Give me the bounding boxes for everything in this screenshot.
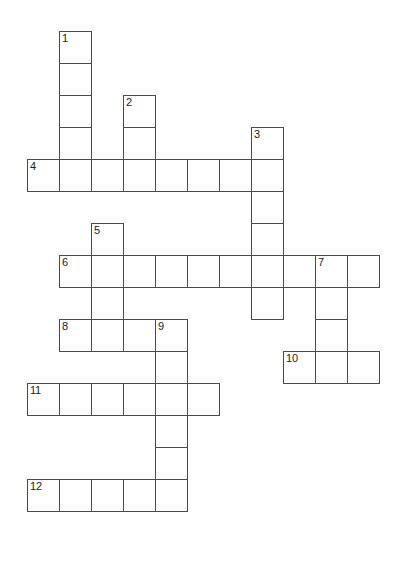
crossword-cell[interactable] — [283, 255, 316, 288]
crossword-cell-numbered-6[interactable]: 6 — [59, 255, 92, 288]
crossword-cell[interactable] — [59, 63, 92, 96]
cell-number-label: 1 — [62, 32, 68, 44]
crossword-cell[interactable] — [59, 479, 92, 512]
crossword-cell[interactable] — [155, 255, 188, 288]
crossword-cell[interactable] — [59, 95, 92, 128]
crossword-cell[interactable] — [315, 319, 348, 352]
cell-number-label: 9 — [158, 320, 164, 332]
crossword-cell[interactable] — [123, 255, 156, 288]
cell-number-label: 2 — [126, 96, 132, 108]
crossword-cell[interactable] — [251, 287, 284, 320]
cell-number-label: 7 — [318, 256, 324, 268]
crossword-cell-numbered-2[interactable]: 2 — [123, 95, 156, 128]
crossword-cell[interactable] — [315, 351, 348, 384]
crossword-cell[interactable] — [91, 255, 124, 288]
crossword-cell[interactable] — [251, 255, 284, 288]
crossword-cell[interactable] — [251, 159, 284, 192]
crossword-cell-numbered-1[interactable]: 1 — [59, 31, 92, 64]
crossword-cell[interactable] — [251, 223, 284, 256]
crossword-cell[interactable] — [91, 159, 124, 192]
crossword-cell[interactable] — [315, 287, 348, 320]
crossword-cell[interactable] — [91, 383, 124, 416]
cell-number-label: 5 — [94, 224, 100, 236]
crossword-cell[interactable] — [155, 351, 188, 384]
cell-number-label: 8 — [62, 320, 68, 332]
crossword-cell-numbered-11[interactable]: 11 — [27, 383, 60, 416]
cell-number-label: 3 — [254, 128, 260, 140]
crossword-cell[interactable] — [123, 479, 156, 512]
crossword-cell-numbered-3[interactable]: 3 — [251, 127, 284, 160]
crossword-cell[interactable] — [91, 319, 124, 352]
crossword-cell[interactable] — [155, 415, 188, 448]
crossword-cell[interactable] — [123, 159, 156, 192]
crossword-cell-numbered-8[interactable]: 8 — [59, 319, 92, 352]
crossword-cell[interactable] — [59, 383, 92, 416]
crossword-cell[interactable] — [123, 319, 156, 352]
crossword-cell[interactable] — [91, 287, 124, 320]
crossword-cell-numbered-9[interactable]: 9 — [155, 319, 188, 352]
crossword-grid[interactable]: 123456789101112 — [0, 0, 416, 587]
crossword-cell[interactable] — [347, 351, 380, 384]
crossword-cell-numbered-7[interactable]: 7 — [315, 255, 348, 288]
crossword-cell-numbered-4[interactable]: 4 — [27, 159, 60, 192]
crossword-cell[interactable] — [59, 127, 92, 160]
cell-number-label: 4 — [30, 160, 36, 172]
crossword-cell[interactable] — [187, 255, 220, 288]
cell-number-label: 12 — [30, 480, 42, 492]
crossword-cell[interactable] — [155, 159, 188, 192]
cell-number-label: 6 — [62, 256, 68, 268]
crossword-cell[interactable] — [91, 479, 124, 512]
crossword-cell[interactable] — [187, 159, 220, 192]
crossword-cell[interactable] — [123, 383, 156, 416]
crossword-cell-numbered-10[interactable]: 10 — [283, 351, 316, 384]
crossword-cell[interactable] — [251, 191, 284, 224]
cell-number-label: 10 — [286, 352, 298, 364]
cell-number-label: 11 — [30, 384, 41, 396]
crossword-cell[interactable] — [219, 255, 252, 288]
crossword-cell[interactable] — [59, 159, 92, 192]
crossword-cell[interactable] — [219, 159, 252, 192]
crossword-cell[interactable] — [155, 479, 188, 512]
crossword-cell[interactable] — [187, 383, 220, 416]
crossword-cell-numbered-5[interactable]: 5 — [91, 223, 124, 256]
crossword-cell-numbered-12[interactable]: 12 — [27, 479, 60, 512]
crossword-cell[interactable] — [123, 127, 156, 160]
crossword-cell[interactable] — [155, 447, 188, 480]
crossword-cell[interactable] — [347, 255, 380, 288]
crossword-cell[interactable] — [155, 383, 188, 416]
